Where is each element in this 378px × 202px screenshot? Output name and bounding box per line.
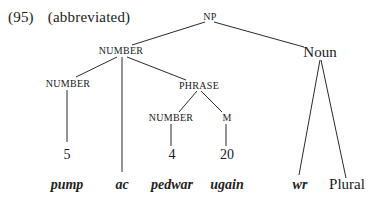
edge-np-number [132,22,205,45]
edge-phrase-number [179,91,197,112]
node-np: NP [203,12,216,22]
leaf-wr: wr [293,178,308,192]
leaf-ugain: ugain [210,178,243,192]
leaf-pump: pump [51,178,84,192]
leaf-plural: Plural [329,177,365,192]
numeral-20: 20 [220,148,234,162]
edge-noun-plural [321,60,346,178]
edge-number-phrase [127,57,186,80]
edge-np-noun [214,22,304,47]
node-m: M [222,113,231,123]
example-number: (95) [8,9,34,25]
edge-phrase-m [201,91,222,112]
edge-number-number-left [76,57,117,77]
node-noun: Noun [303,45,336,60]
node-number-phrase: NUMBER [149,113,194,123]
node-number-left: NUMBER [46,79,91,89]
leaf-ac: ac [115,178,128,192]
example-caption: (95) (abbreviated) [8,9,140,26]
node-number-top: NUMBER [99,46,144,56]
numeral-5: 5 [64,148,71,162]
leaf-pedwar: pedwar [151,178,193,192]
edge-noun-wr [299,60,320,175]
example-note: (abbreviated) [48,9,131,25]
numeral-4: 4 [169,148,176,162]
tree-edges [0,0,378,202]
node-phrase: PHRASE [179,81,219,91]
